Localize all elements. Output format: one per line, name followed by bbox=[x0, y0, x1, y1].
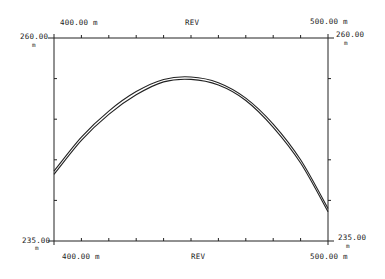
bottom-x-label: REV bbox=[191, 253, 205, 261]
left-y-max-label: 260.00 bbox=[20, 33, 48, 41]
series-line-2 bbox=[54, 77, 328, 209]
right-y-min-unit: m bbox=[346, 243, 350, 249]
bottom-x-min-label: 400.00 m bbox=[62, 253, 100, 261]
top-x-min-label: 400.00 m bbox=[60, 19, 98, 27]
plot-frame bbox=[0, 0, 385, 279]
left-y-min-unit: m bbox=[35, 245, 39, 251]
left-y-max-unit: m bbox=[32, 42, 36, 48]
series-line-1 bbox=[54, 79, 328, 212]
top-x-max-label: 500.00 m bbox=[310, 18, 348, 26]
right-y-max-unit: m bbox=[344, 40, 348, 46]
bottom-x-max-label: 500.00 m bbox=[310, 253, 348, 261]
right-y-max-label: 260.00 bbox=[336, 31, 364, 39]
right-y-min-label: 235.00 bbox=[338, 234, 366, 242]
top-title-label: REV bbox=[185, 19, 199, 27]
